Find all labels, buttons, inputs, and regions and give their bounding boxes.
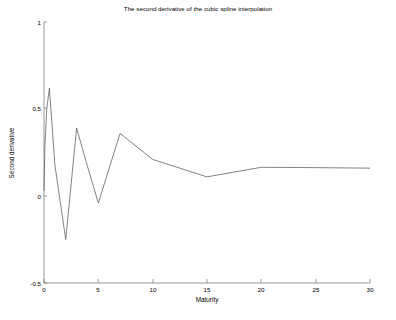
y-tick-label-neg0p5: -0.5 xyxy=(30,280,41,287)
figure-canvas: The second derivative of the cubic splin… xyxy=(0,0,396,320)
y-tick-label-1: 1 xyxy=(38,19,42,26)
y-tick-label-0p5: 0.5 xyxy=(32,105,41,112)
y-tick-label-0: 0 xyxy=(38,193,42,200)
y-axis-title: Second derivative xyxy=(8,127,15,178)
x-tick-label-30: 30 xyxy=(367,286,374,293)
x-axis-title: Maturity xyxy=(196,296,220,304)
data-series-line xyxy=(44,88,370,239)
plot-area: 1 0.5 0 -0.5 0 5 10 15 20 25 30 Maturity… xyxy=(0,0,396,320)
x-tick-label-0: 0 xyxy=(42,286,46,293)
x-tick-label-15: 15 xyxy=(204,286,211,293)
x-tick-label-5: 5 xyxy=(96,286,100,293)
x-tick-label-10: 10 xyxy=(150,286,157,293)
x-tick-label-20: 20 xyxy=(258,286,265,293)
x-tick-marks xyxy=(44,279,370,283)
x-tick-label-25: 25 xyxy=(313,286,320,293)
